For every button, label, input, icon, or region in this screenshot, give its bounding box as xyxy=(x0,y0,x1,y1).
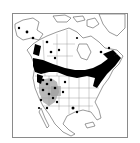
map-frame xyxy=(12,13,128,138)
north-america-map xyxy=(13,14,127,137)
